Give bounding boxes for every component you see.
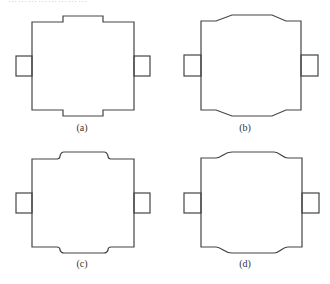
panel-d-body-outline bbox=[201, 152, 302, 253]
panel-c-label: (c) bbox=[76, 258, 87, 270]
panel-c: (c) bbox=[16, 152, 150, 270]
panel-b-label: (b) bbox=[239, 122, 251, 134]
panel-b-right-tab bbox=[301, 55, 318, 76]
panel-a-left-tab bbox=[16, 56, 32, 76]
panel-a: (a) bbox=[16, 16, 150, 134]
panel-a-body-outline bbox=[32, 16, 134, 116]
panel-c-left-tab bbox=[16, 193, 32, 213]
panel-d: (d) bbox=[184, 152, 319, 270]
panel-c-right-tab bbox=[134, 193, 150, 213]
panel-c-body-outline bbox=[32, 152, 134, 253]
panel-a-label: (a) bbox=[76, 122, 87, 134]
panel-b-left-tab bbox=[184, 55, 201, 76]
panel-d-left-tab bbox=[184, 193, 201, 213]
panel-d-right-tab bbox=[302, 193, 319, 213]
panel-d-label: (d) bbox=[239, 258, 251, 270]
panel-a-right-tab bbox=[134, 56, 150, 76]
panel-b-body-outline bbox=[201, 15, 301, 116]
figure-canvas: (a) (b) (c) (d) bbox=[0, 0, 330, 284]
panel-b: (b) bbox=[184, 15, 318, 134]
